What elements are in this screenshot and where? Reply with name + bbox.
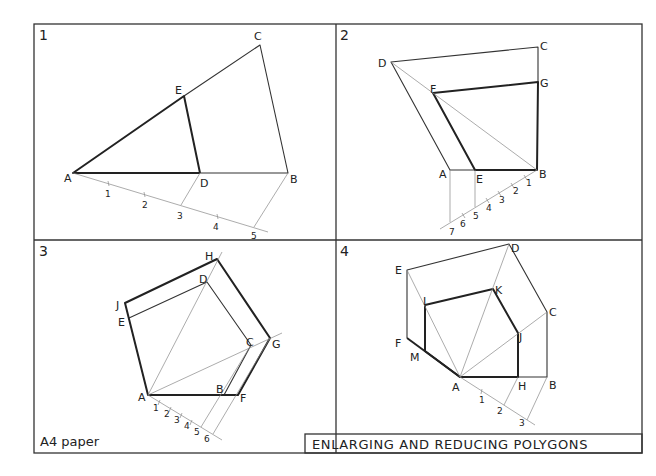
drawing-sheet: 1 A B C D E 1 2 3 4 5 2 — [0, 0, 656, 476]
panel-number: 2 — [340, 27, 349, 43]
label-j: J — [518, 331, 522, 344]
label-d: D — [200, 177, 208, 190]
division-6: 6 — [460, 219, 466, 229]
label-e: E — [395, 264, 402, 277]
label-m: M — [410, 351, 420, 364]
division-ticks — [462, 175, 527, 218]
label-b: B — [216, 383, 224, 396]
division-line — [73, 173, 268, 232]
label-b: B — [549, 379, 557, 392]
panel-1: 1 A B C D E 1 2 3 4 5 — [39, 27, 298, 241]
label-f: F — [240, 392, 246, 405]
paper-size-label: A4 paper — [40, 434, 100, 449]
division-tick — [481, 389, 482, 394]
diagonal-ac — [460, 312, 547, 377]
label-d: D — [511, 242, 519, 255]
label-e: E — [476, 173, 483, 186]
label-a: A — [138, 391, 146, 404]
division-1: 1 — [526, 178, 532, 188]
label-l: L — [423, 295, 430, 308]
division-line — [440, 170, 537, 229]
division-5: 5 — [194, 427, 200, 437]
division-2: 2 — [142, 200, 148, 210]
label-j: J — [115, 299, 119, 312]
panel-number: 3 — [39, 243, 48, 259]
pentagon-abcde — [129, 282, 251, 395]
division-2: 2 — [164, 409, 170, 419]
panel-4: 4 A B C D E F H J K L M 1 2 3 — [340, 242, 557, 428]
construction-3-d — [181, 173, 200, 205]
division-2: 2 — [513, 186, 519, 196]
triangle-abc — [184, 45, 288, 173]
division-3: 3 — [177, 211, 183, 221]
division-4: 4 — [184, 421, 190, 431]
label-b: B — [290, 173, 298, 186]
division-4: 4 — [213, 222, 219, 232]
division-7: 7 — [449, 227, 455, 237]
label-a: A — [64, 172, 72, 185]
division-3: 3 — [174, 415, 180, 425]
division-6: 6 — [204, 434, 210, 444]
label-f: F — [395, 337, 401, 350]
construction-5-b — [254, 173, 288, 227]
label-e: E — [118, 316, 125, 329]
division-4: 4 — [486, 203, 492, 213]
label-a: A — [452, 381, 460, 394]
panel-number: 1 — [39, 27, 48, 43]
hexagon-abcdef — [407, 244, 547, 377]
division-1: 1 — [105, 189, 111, 199]
diagonal-ac — [148, 333, 282, 395]
label-h: H — [205, 250, 213, 263]
division-3: 3 — [499, 195, 505, 205]
division-5: 5 — [473, 211, 479, 221]
quad-ebgf — [433, 82, 538, 170]
label-d: D — [199, 273, 207, 286]
label-g: G — [272, 338, 281, 351]
hexagon-ahjklm — [425, 289, 518, 377]
label-e: E — [175, 84, 182, 97]
label-a: A — [439, 168, 447, 181]
division-2: 2 — [497, 406, 503, 416]
division-5: 5 — [251, 231, 257, 241]
panel-2: 2 A B C D E F G 1 2 3 4 5 6 7 — [340, 27, 549, 237]
label-f: F — [430, 83, 436, 96]
label-h: H — [518, 380, 526, 393]
label-c: C — [540, 40, 548, 53]
label-b: B — [539, 168, 547, 181]
label-c: C — [254, 30, 262, 43]
panel-number: 4 — [340, 243, 349, 259]
diagonal-db — [391, 62, 537, 170]
label-g: G — [540, 77, 549, 90]
label-c: C — [246, 336, 254, 349]
sheet-title: ENLARGING AND REDUCING POLYGONS — [312, 437, 588, 452]
label-d: D — [378, 57, 386, 70]
division-1: 1 — [479, 395, 485, 405]
label-c: C — [549, 306, 557, 319]
division-3: 3 — [519, 418, 525, 428]
panel-3: 3 A B C D E F G H J 1 2 3 4 5 6 A4 paper — [39, 243, 282, 449]
construction-2-h — [504, 377, 518, 405]
division-1: 1 — [153, 403, 159, 413]
diagonal-ad — [460, 244, 509, 377]
triangle-ade — [73, 96, 200, 173]
label-k: K — [495, 284, 503, 297]
construction-3-b — [527, 377, 547, 420]
